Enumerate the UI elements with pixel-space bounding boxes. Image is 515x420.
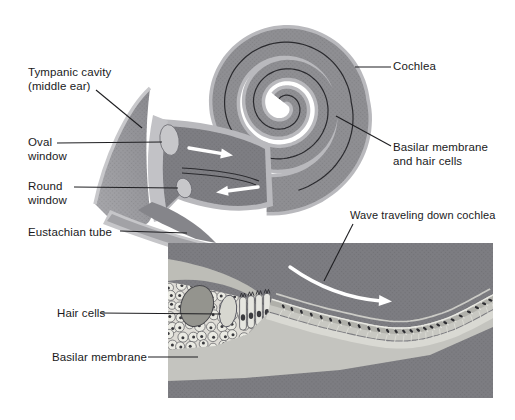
diagram-canvas: Tympanic cavity (middle ear) Oval window… <box>0 0 515 420</box>
label-eustachian-tube: Eustachian tube <box>28 225 112 239</box>
label-hair-cells: Hair cells <box>57 306 105 320</box>
label-basilar-membrane: Basilar membrane <box>52 350 147 364</box>
label-basilar-membrane-hair: Basilar membrane and hair cells <box>393 140 488 168</box>
label-wave-traveling: Wave traveling down cochlea <box>350 208 495 222</box>
inset-panel <box>164 243 501 398</box>
label-tympanic-cavity: Tympanic cavity (middle ear) <box>28 65 111 93</box>
label-cochlea: Cochlea <box>393 59 436 73</box>
tympanic-cavity-shape <box>95 88 151 227</box>
label-oval-window: Oval window <box>28 135 67 163</box>
label-round-window: Round window <box>28 179 67 207</box>
